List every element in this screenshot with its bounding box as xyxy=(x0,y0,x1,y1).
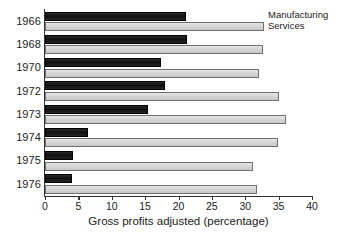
y-axis-tick-label: 1975 xyxy=(1,155,41,166)
x-axis-title: Gross profits adjusted (percentage) xyxy=(45,215,312,228)
bar-services xyxy=(45,138,278,147)
bar-manufacturing xyxy=(45,12,186,21)
bar-services xyxy=(45,162,253,171)
bar-manufacturing xyxy=(45,174,72,183)
y-axis-tick-label: 1970 xyxy=(1,62,41,73)
y-axis-tick-label: 1968 xyxy=(1,39,41,50)
bar-services xyxy=(45,92,279,101)
plot-area xyxy=(45,10,312,196)
bar-services xyxy=(45,22,264,31)
bar-services xyxy=(45,45,263,54)
bar-services xyxy=(45,69,259,78)
chart-legend: Manufacturing Services xyxy=(268,9,351,31)
bar-services xyxy=(45,185,257,194)
y-axis-tick-label: 1966 xyxy=(1,16,41,27)
x-axis-tick-label: 0 xyxy=(30,201,60,212)
x-axis-tick-label: 35 xyxy=(264,201,294,212)
bar-manufacturing xyxy=(45,35,187,44)
x-axis-tick-label: 30 xyxy=(230,201,260,212)
bar-manufacturing xyxy=(45,81,165,90)
x-axis-tick-label: 15 xyxy=(130,201,160,212)
bar-manufacturing xyxy=(45,151,73,160)
x-axis-tick-label: 40 xyxy=(297,201,327,212)
bar-manufacturing xyxy=(45,128,88,137)
x-axis-tick-label: 10 xyxy=(97,201,127,212)
x-axis-tick-label: 20 xyxy=(164,201,194,212)
y-axis-tick-label: 1972 xyxy=(1,86,41,97)
legend-entry-services: Services xyxy=(268,20,351,31)
y-axis-tick-label: 1973 xyxy=(1,109,41,120)
y-axis-tick-label: 1974 xyxy=(1,132,41,143)
y-axis-tick-label: 1976 xyxy=(1,179,41,190)
legend-entry-manufacturing: Manufacturing xyxy=(268,9,351,20)
bar-chart: 19661968197019721973197419751976 0510152… xyxy=(0,0,351,238)
x-axis-tick-label: 5 xyxy=(63,201,93,212)
y-axis-category-labels: 19661968197019721973197419751976 xyxy=(0,10,41,196)
bar-manufacturing xyxy=(45,58,161,67)
bar-services xyxy=(45,115,286,124)
x-axis-tick-label: 25 xyxy=(197,201,227,212)
bar-manufacturing xyxy=(45,105,148,114)
